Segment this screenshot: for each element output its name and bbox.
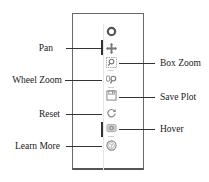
toolbar-separator: [103, 24, 104, 170]
hover-active-indicator: [101, 122, 103, 137]
help-icon[interactable]: ?: [105, 139, 118, 152]
hover-icon[interactable]: [105, 122, 118, 135]
callout-line-hover: [119, 129, 155, 130]
toolbar-divider: [108, 87, 114, 88]
callout-label-learn-more: Learn More: [15, 141, 60, 151]
callout-label-box-zoom: Box Zoom: [160, 58, 201, 68]
callout-label-hover: Hover: [160, 124, 184, 134]
toolbar-divider: [108, 70, 114, 71]
callout-line-pan: [66, 48, 102, 49]
callout-label-save: Save Plot: [160, 92, 196, 102]
callout-line-save: [119, 97, 155, 98]
callout-label-pan: Pan: [39, 43, 53, 53]
callout-line-reset: [66, 114, 102, 115]
callout-line-wheel-zoom: [65, 80, 102, 81]
callout-line-box-zoom: [119, 63, 155, 64]
box-zoom-icon[interactable]: [105, 56, 118, 69]
reset-icon[interactable]: [105, 107, 118, 120]
bokeh-logo-icon[interactable]: [105, 25, 118, 38]
wheel-zoom-icon[interactable]: [105, 73, 118, 86]
svg-text:?: ?: [110, 143, 113, 149]
callout-label-wheel-zoom: Wheel Zoom: [12, 75, 62, 85]
callout-label-reset: Reset: [39, 109, 60, 119]
save-icon[interactable]: [105, 89, 118, 102]
pan-icon[interactable]: [105, 42, 118, 55]
callout-line-learn-more: [66, 146, 102, 147]
toolbar-divider: [108, 136, 114, 137]
